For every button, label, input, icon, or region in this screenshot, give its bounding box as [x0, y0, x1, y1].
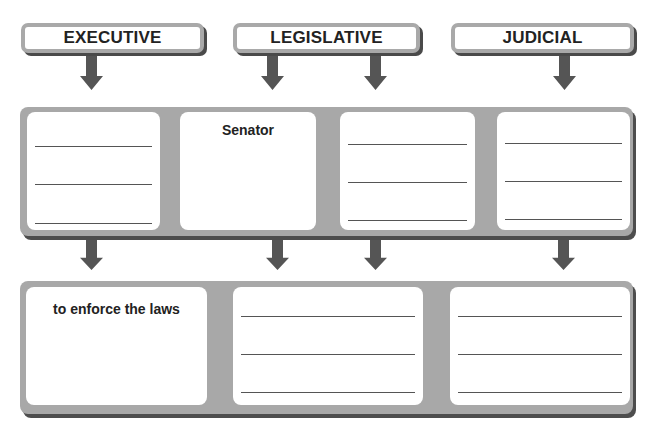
row1-cell-legislative-2[interactable]	[340, 112, 475, 230]
row1-cell-executive[interactable]	[27, 112, 160, 230]
answer-line	[458, 354, 622, 355]
answer-line	[505, 219, 622, 220]
arrow-down-icon	[552, 240, 575, 270]
arrow-down-icon	[553, 56, 576, 90]
arrow-down-icon	[364, 240, 387, 270]
row2-panel: to enforce the laws	[20, 281, 633, 414]
arrow-down-icon	[266, 240, 289, 270]
branch-label: JUDICIAL	[503, 28, 583, 48]
arrow-down-icon	[80, 240, 103, 270]
answer-line	[35, 146, 152, 147]
answer-line	[35, 223, 152, 224]
answer-line	[241, 316, 415, 317]
answer-line	[505, 143, 622, 144]
branch-judicial: JUDICIAL	[451, 23, 634, 53]
answer-line	[241, 354, 415, 355]
branch-label: LEGISLATIVE	[270, 28, 382, 48]
answer-line	[458, 316, 622, 317]
branch-executive: EXECUTIVE	[21, 23, 204, 53]
branch-label: EXECUTIVE	[63, 28, 161, 48]
row1-cell-judicial[interactable]	[497, 112, 630, 230]
answer-line	[348, 182, 467, 183]
branch-legislative: LEGISLATIVE	[233, 23, 420, 53]
answer-line	[505, 181, 622, 182]
answer-line	[348, 220, 467, 221]
row1-panel: Senator	[20, 107, 633, 236]
row1-cell-legislative-1[interactable]: Senator	[180, 112, 316, 230]
cell-text: Senator	[180, 122, 316, 138]
arrow-down-icon	[80, 56, 103, 90]
arrow-down-icon	[364, 56, 387, 90]
arrow-down-icon	[261, 56, 284, 90]
row2-cell-judicial[interactable]	[450, 287, 630, 405]
answer-line	[458, 392, 622, 393]
row2-cell-legislative[interactable]	[233, 287, 423, 405]
row2-cell-executive[interactable]: to enforce the laws	[26, 287, 207, 405]
cell-text: to enforce the laws	[26, 301, 207, 317]
answer-line	[348, 144, 467, 145]
answer-line	[241, 392, 415, 393]
answer-line	[35, 184, 152, 185]
